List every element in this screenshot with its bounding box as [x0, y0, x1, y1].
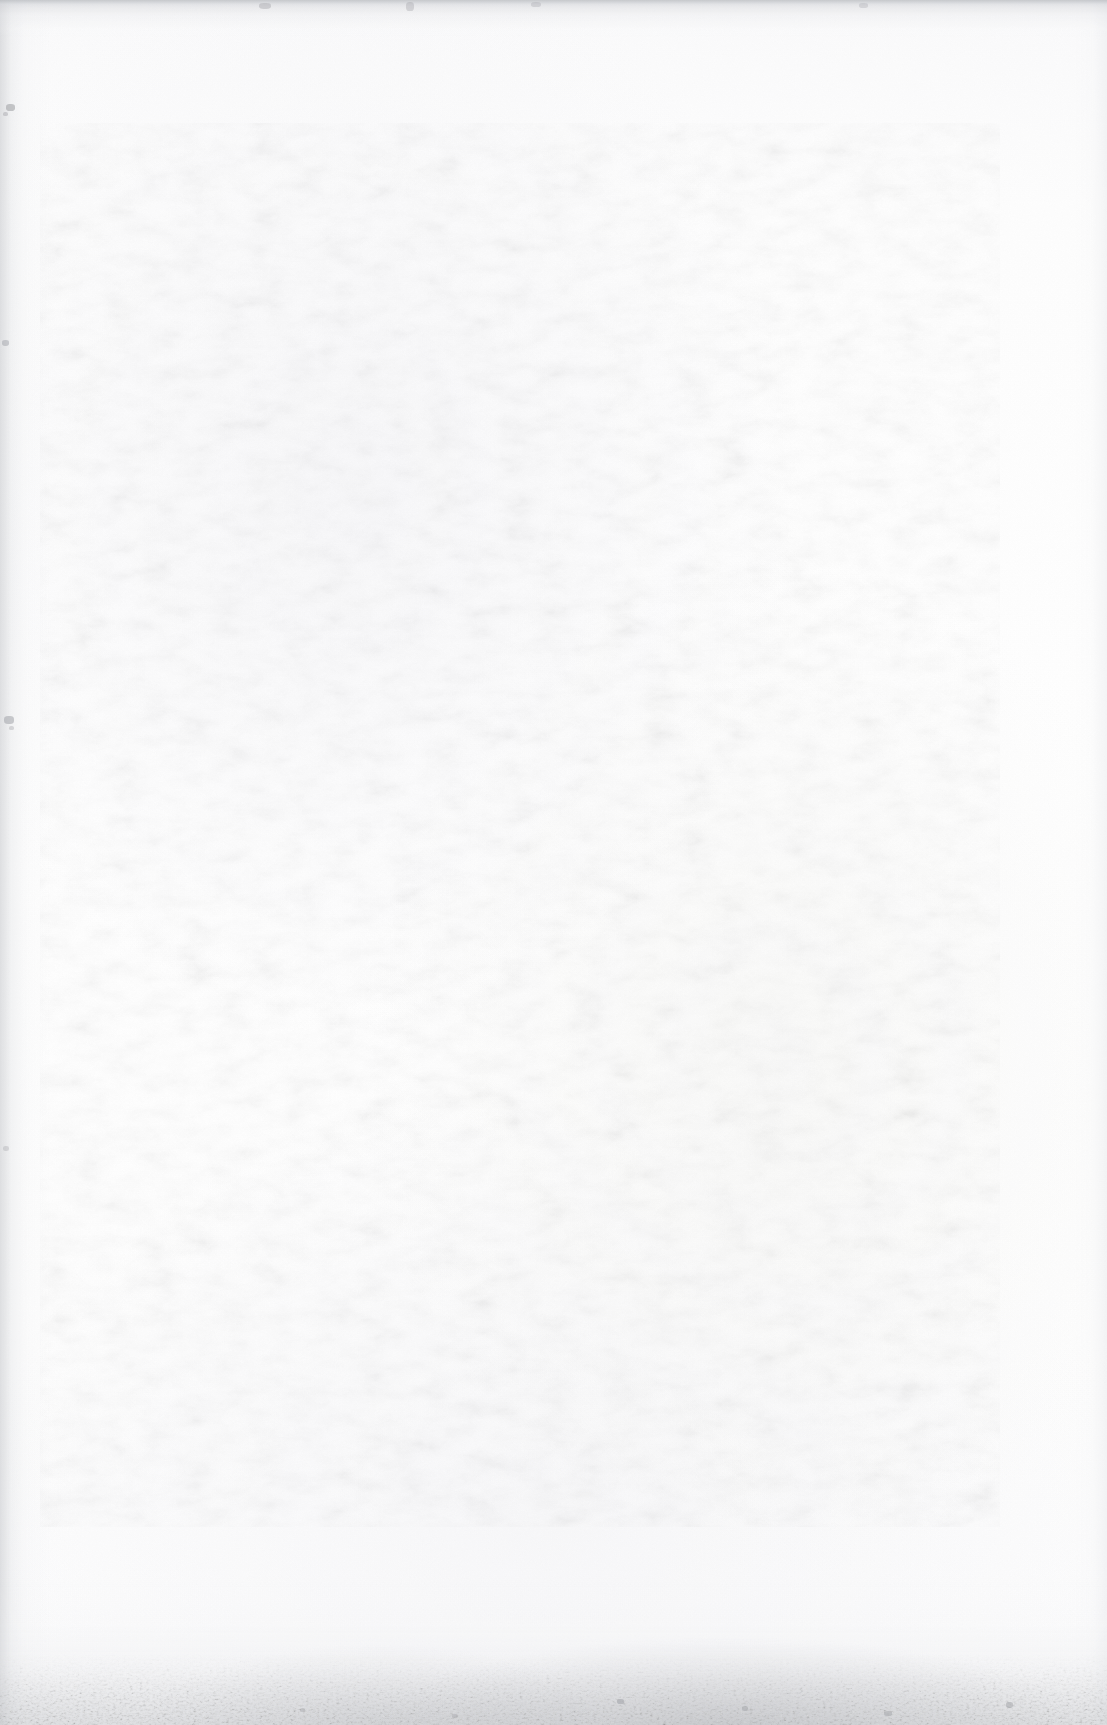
scan-dirt-speck [6, 104, 15, 111]
scan-dirt-speck [617, 1699, 624, 1704]
scan-dirt-speck [3, 1146, 9, 1151]
scan-dirt-speck [9, 726, 14, 730]
scan-dirt-speck [300, 1708, 305, 1712]
scanned-page [0, 0, 1107, 1725]
bottom-grime-speckle [0, 1653, 1107, 1725]
scan-dirt-speck [531, 2, 541, 7]
scan-dirt-speck [4, 716, 14, 724]
scan-dirt-speck [406, 2, 414, 11]
scan-dirt-speck [259, 3, 271, 9]
scan-dirt-speck [452, 1714, 458, 1718]
top-scan-band [0, 0, 1107, 7]
scan-dirt-speck [884, 1711, 892, 1716]
scan-dirt-speck [1006, 1702, 1013, 1708]
bottom-grime-shadow [0, 1615, 1107, 1725]
bottom-edge-vignette [0, 1575, 1107, 1725]
scan-dirt-speck [3, 112, 8, 116]
right-edge-vignette [1073, 0, 1107, 1725]
scan-dirt-speck [859, 3, 868, 8]
left-edge-vignette [0, 0, 52, 1725]
paper-grain [0, 0, 1107, 1725]
bleed-through-ghosting [0, 0, 1107, 1725]
top-edge-vignette [0, 0, 1107, 38]
scan-dirt-speck [2, 340, 9, 346]
scan-dirt-speck [742, 1706, 748, 1711]
